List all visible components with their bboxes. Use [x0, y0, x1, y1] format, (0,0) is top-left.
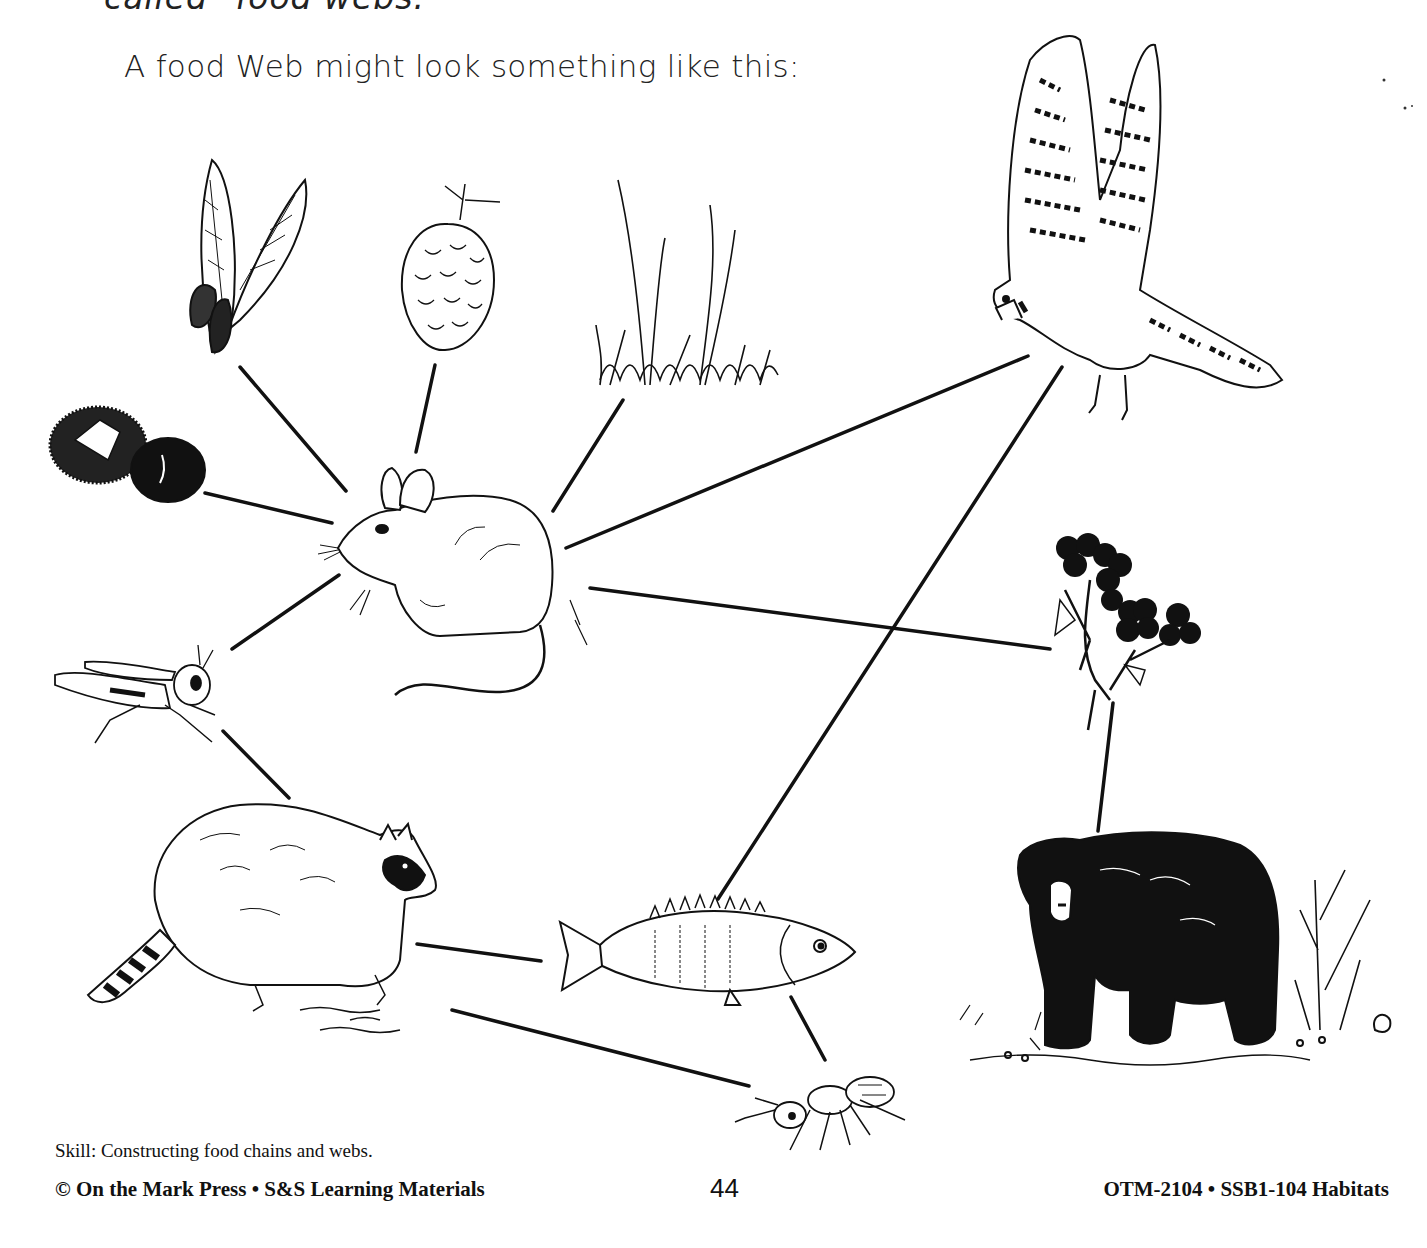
- link-ant-fish: [791, 997, 825, 1060]
- footer-skill: Skill: Constructing food chains and webs…: [55, 1140, 373, 1162]
- fish-illustration: [560, 895, 855, 1005]
- pine-cone-illustration: [402, 184, 500, 350]
- grasshopper-illustration: [55, 645, 215, 743]
- food-web-diagram: [0, 0, 1427, 1248]
- link-grass-mouse: [553, 400, 623, 511]
- hawk-illustration: [994, 36, 1282, 420]
- link-ant-raccoon: [452, 1010, 749, 1086]
- link-fish-raccoon: [417, 944, 541, 961]
- bear-illustration: [960, 832, 1390, 1065]
- link-maple-mouse: [240, 367, 346, 491]
- link-mouse-hawk: [566, 356, 1028, 548]
- page-number: 44: [710, 1173, 739, 1204]
- link-fish-hawk: [718, 367, 1062, 899]
- chestnut-illustration: [50, 407, 205, 502]
- link-mouse-berries: [590, 588, 1050, 649]
- berries-illustration: [1055, 533, 1201, 730]
- link-berries-bear: [1098, 703, 1113, 831]
- link-pinecone-mouse: [416, 365, 435, 452]
- link-grasshopper-mouse: [232, 575, 339, 649]
- mouse-illustration: [318, 468, 587, 695]
- ant-illustration: [735, 1077, 905, 1150]
- maple-seeds-illustration: [190, 160, 306, 352]
- raccoon-illustration: [88, 804, 436, 1032]
- footer-series: OTM-2104 • SSB1-104 Habitats: [1103, 1177, 1389, 1202]
- footer-publisher: © On the Mark Press • S&S Learning Mater…: [55, 1177, 485, 1202]
- scan-specks: [1383, 79, 1414, 110]
- grass-illustration: [596, 180, 778, 385]
- link-grasshopper-raccoon: [223, 731, 289, 798]
- link-chestnut-mouse: [205, 493, 332, 523]
